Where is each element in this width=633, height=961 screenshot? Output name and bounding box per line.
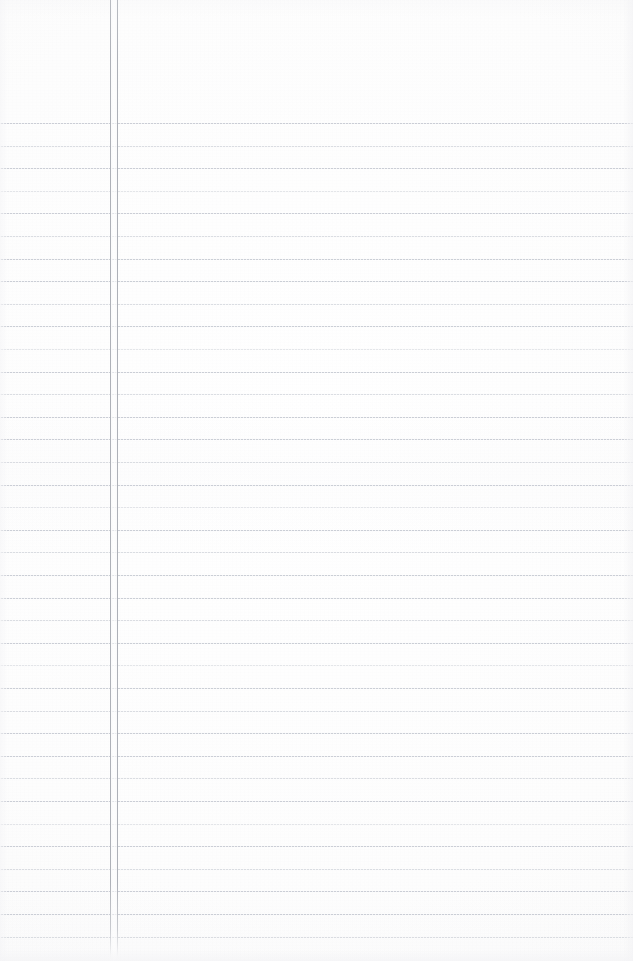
rule-line xyxy=(0,869,633,870)
rule-line xyxy=(0,507,633,508)
rule-line xyxy=(0,643,633,644)
rule-line xyxy=(0,914,633,915)
scanned-notepad-page xyxy=(0,0,633,961)
rule-line xyxy=(0,891,633,892)
rule-line xyxy=(0,778,633,779)
rule-line xyxy=(0,824,633,825)
rule-line xyxy=(0,530,633,531)
rule-line xyxy=(0,304,633,305)
rule-line xyxy=(0,733,633,734)
rule-line xyxy=(0,598,633,599)
margin-rule-right xyxy=(117,0,118,958)
rule-line xyxy=(0,372,633,373)
margin-rule-left xyxy=(110,0,111,958)
rule-line xyxy=(0,665,633,666)
rule-line xyxy=(0,552,633,553)
rule-line xyxy=(0,485,633,486)
rule-line xyxy=(0,756,633,757)
rule-line xyxy=(0,462,633,463)
rule-line xyxy=(0,801,633,802)
rule-line xyxy=(0,439,633,440)
rule-line xyxy=(0,846,633,847)
rule-line xyxy=(0,281,633,282)
rule-line xyxy=(0,349,633,350)
rule-line xyxy=(0,236,633,237)
rule-line xyxy=(0,259,633,260)
rule-line xyxy=(0,711,633,712)
rule-line xyxy=(0,191,633,192)
rule-line xyxy=(0,213,633,214)
rule-line xyxy=(0,688,633,689)
rule-line xyxy=(0,394,633,395)
rule-line xyxy=(0,326,633,327)
rule-line xyxy=(0,146,633,147)
rule-line xyxy=(0,937,633,938)
rule-line xyxy=(0,620,633,621)
ruled-lines-layer xyxy=(0,0,633,961)
rule-line xyxy=(0,575,633,576)
rule-line xyxy=(0,123,633,124)
rule-line xyxy=(0,168,633,169)
rule-line xyxy=(0,417,633,418)
